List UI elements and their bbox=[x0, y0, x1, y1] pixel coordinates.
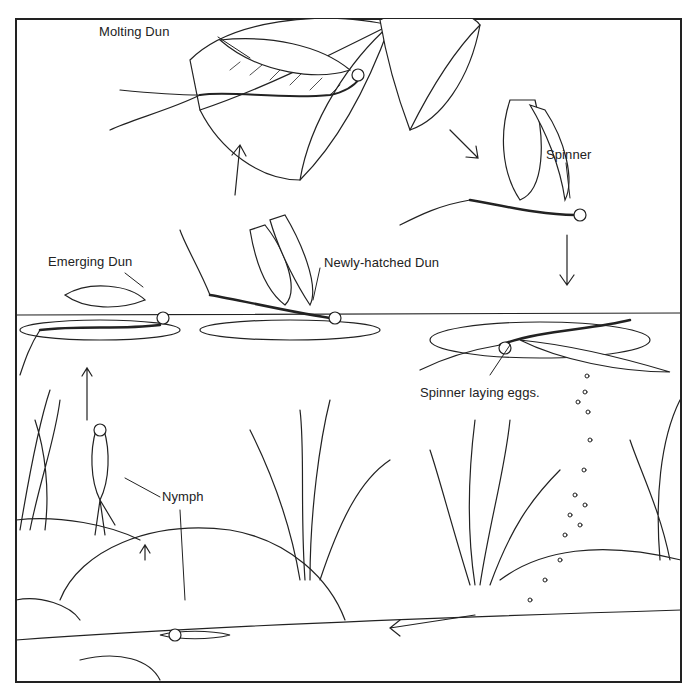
nymph-insects bbox=[92, 424, 230, 641]
label-spinner-laying-eggs: Spinner laying eggs. bbox=[420, 385, 540, 400]
label-spinner: Spinner bbox=[546, 147, 592, 162]
label-nymph: Nymph bbox=[162, 489, 204, 504]
label-emerging-dun: Emerging Dun bbox=[48, 254, 132, 269]
eggs bbox=[528, 374, 592, 602]
newly-hatched-dun-insect bbox=[180, 215, 341, 324]
label-newly-hatched-dun: Newly-hatched Dun bbox=[324, 255, 439, 270]
water-weeds bbox=[20, 390, 680, 585]
label-pointers bbox=[125, 37, 570, 600]
emerging-dun-insect bbox=[20, 286, 169, 375]
life-cycle-artwork bbox=[0, 0, 696, 696]
stream-bed bbox=[16, 519, 681, 680]
label-molting-dun: Molting Dun bbox=[99, 24, 169, 39]
